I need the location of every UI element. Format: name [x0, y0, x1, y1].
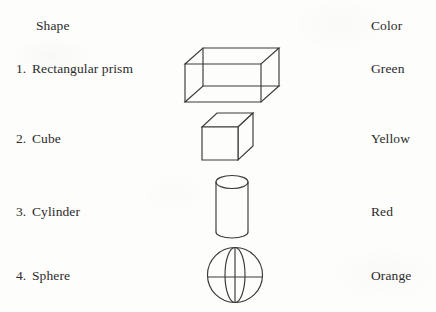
row-label-cylinder: Cylinder — [32, 205, 80, 219]
row-label-sphere: Sphere — [32, 269, 70, 283]
row-label-cube: Cube — [32, 132, 61, 146]
worksheet-page: Shape Color 1. Rectangular prism Green 2… — [0, 0, 436, 312]
column-header-shape: Shape — [36, 19, 70, 33]
row-number-2: 2. — [16, 132, 26, 146]
sphere-icon — [204, 244, 266, 306]
row-number-3: 3. — [16, 205, 26, 219]
cube-icon — [200, 111, 256, 163]
row-number-4: 4. — [16, 269, 26, 283]
row-label-rectangular-prism: Rectangular prism — [32, 62, 133, 76]
row-color-orange: Orange — [371, 269, 411, 283]
column-header-color: Color — [371, 19, 402, 33]
row-number-1: 1. — [16, 62, 26, 76]
row-color-red: Red — [371, 205, 393, 219]
row-color-green: Green — [371, 62, 404, 76]
row-color-yellow: Yellow — [371, 132, 410, 146]
cylinder-icon — [211, 173, 253, 241]
rectangular-prism-icon — [183, 42, 285, 104]
